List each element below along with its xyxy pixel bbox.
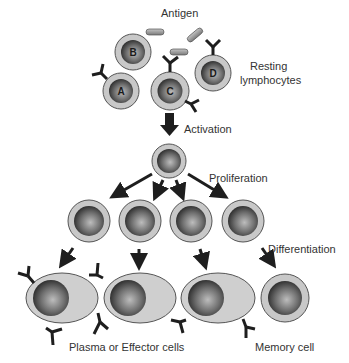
antibody-icon — [206, 40, 220, 55]
arrow-icon — [117, 174, 152, 194]
plasma-cell — [26, 273, 98, 323]
proliferated-cell — [222, 200, 264, 242]
proliferated-cells — [68, 200, 264, 242]
cell-letter: C — [166, 86, 173, 97]
arrow-icon — [157, 180, 163, 193]
proliferated-cell — [68, 200, 110, 242]
antibody-icon — [92, 64, 107, 79]
antigen-icon — [186, 27, 204, 43]
resting-cell-c: C — [151, 56, 199, 112]
resting-cell-a: A — [92, 64, 139, 109]
resting-cell-d: D — [195, 40, 231, 91]
antigen-icon — [146, 29, 164, 35]
resting-cell-b: B — [115, 34, 151, 70]
plasma-cell — [181, 273, 255, 323]
activation-label: Activation — [184, 123, 232, 135]
antibody-icon — [171, 320, 186, 333]
antigen-label: Antigen — [161, 7, 198, 19]
cell-letter: D — [209, 68, 216, 79]
activated-cell — [152, 144, 186, 178]
antibody-icon — [89, 263, 103, 278]
clonal-selection-diagram: Antigen Resting lymphocytes Activation P… — [0, 0, 349, 363]
cell-letter: B — [129, 47, 136, 58]
differentiation-arrows — [64, 248, 271, 262]
antibody-icon — [185, 100, 199, 112]
antibody-icon — [18, 266, 34, 283]
arrow-icon — [64, 248, 73, 261]
arrow-icon — [176, 180, 181, 193]
antibody-icon — [94, 313, 108, 334]
plasma-cells-label: Plasma or Effector cells — [69, 341, 185, 353]
antigen-icon — [170, 49, 188, 55]
differentiation-label: Differentiation — [268, 243, 336, 255]
antigen-molecules — [146, 27, 204, 55]
antibody-icon — [243, 319, 255, 338]
memory-cell-label: Memory cell — [255, 341, 314, 353]
plasma-cell — [104, 273, 176, 323]
antibody-icon — [163, 56, 178, 72]
activation-arrow-icon — [160, 113, 179, 136]
antibody-icon — [46, 328, 62, 345]
memory-cell — [261, 274, 309, 322]
resting-label-line2: lymphocytes — [240, 74, 302, 86]
resting-label-line1: Resting — [250, 60, 287, 72]
proliferated-cell — [170, 200, 212, 242]
cell-letter: A — [117, 86, 124, 97]
arrow-icon — [200, 249, 204, 262]
proliferated-cell — [119, 200, 161, 242]
proliferation-label: Proliferation — [209, 172, 268, 184]
